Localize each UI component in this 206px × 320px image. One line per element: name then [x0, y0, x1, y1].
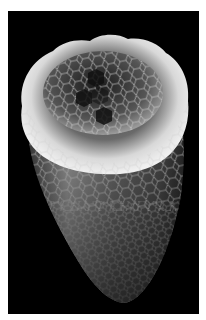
nanotube-illustration [8, 11, 199, 314]
nanotube-image [8, 11, 199, 314]
